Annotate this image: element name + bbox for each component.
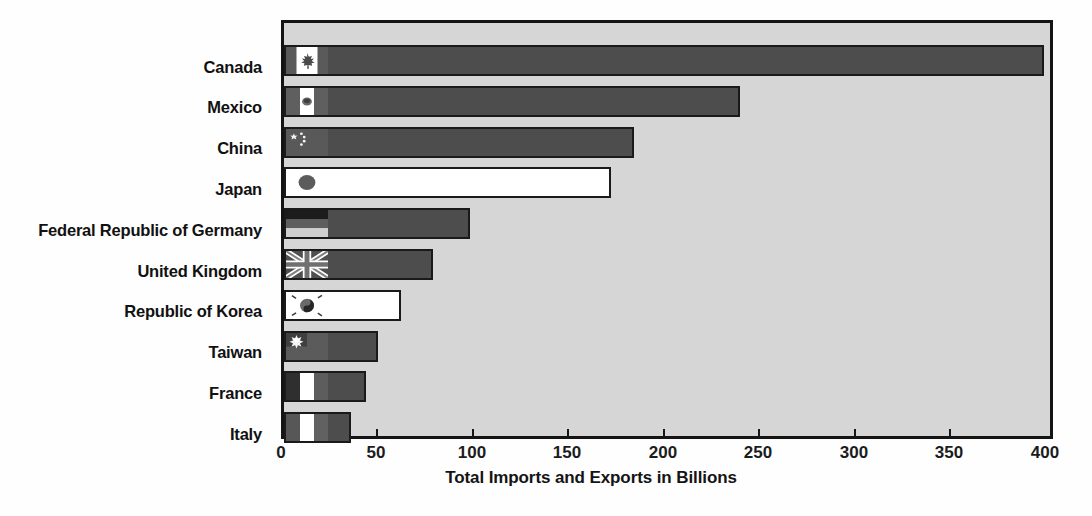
axis-tick xyxy=(758,429,760,439)
taiwan-flag xyxy=(286,333,328,360)
category-label-text: Republic of Korea xyxy=(124,303,262,320)
bar-mexico[interactable] xyxy=(284,86,740,117)
axis-tick xyxy=(376,429,378,439)
italy-flag xyxy=(286,414,328,441)
axis-tick-label: 150 xyxy=(553,443,581,463)
japan-flag xyxy=(286,169,328,196)
bar-canada[interactable] xyxy=(284,45,1044,76)
axis-tick xyxy=(949,429,951,439)
bar-france[interactable] xyxy=(284,371,366,402)
china-flag xyxy=(286,129,328,156)
mexico-flag xyxy=(286,88,328,115)
canada-flag xyxy=(286,47,328,74)
bar-row xyxy=(284,366,1050,407)
bar-republic-of-korea[interactable] xyxy=(284,290,401,321)
bar-row xyxy=(284,285,1050,326)
bar-row xyxy=(284,40,1050,81)
axis-tick xyxy=(854,429,856,439)
category-label-france: France xyxy=(0,373,262,414)
bar-japan[interactable] xyxy=(284,167,611,198)
category-label-text: Italy xyxy=(230,426,262,443)
category-label-japan: Japan xyxy=(0,169,262,210)
category-label-text: China xyxy=(217,140,262,157)
bar-row xyxy=(284,407,1050,448)
category-label-mexico: Mexico xyxy=(0,87,262,128)
category-label-taiwan: Taiwan xyxy=(0,332,262,373)
value-axis: 0 50 100 150 200 250 300 350 400 xyxy=(281,439,1053,440)
bar-row xyxy=(284,122,1050,163)
axis-tick-label: 200 xyxy=(649,443,677,463)
bar-row xyxy=(284,326,1050,367)
axis-tick-label: 0 xyxy=(276,443,285,463)
bar-series xyxy=(284,23,1050,436)
axis-tick-label: 400 xyxy=(1031,443,1059,463)
germany-flag xyxy=(286,210,328,237)
category-label-united-kingdom: United Kingdom xyxy=(0,250,262,291)
category-label-text: Federal Republic of Germany xyxy=(38,222,262,239)
plot-area xyxy=(281,20,1053,439)
category-label-italy: Italy xyxy=(0,414,262,455)
category-label-text: France xyxy=(209,385,262,402)
south-korea-flag xyxy=(286,292,328,319)
axis-tick-label: 350 xyxy=(935,443,963,463)
category-label-canada: Canada xyxy=(0,46,262,87)
united-kingdom-flag xyxy=(286,251,328,278)
category-label-republic-of-korea: Republic of Korea xyxy=(0,291,262,332)
bar-taiwan[interactable] xyxy=(284,331,378,362)
bar-united-kingdom[interactable] xyxy=(284,249,433,280)
category-axis-labels: Canada Mexico China Japan Federal Republ… xyxy=(0,26,272,434)
bar-row xyxy=(284,162,1050,203)
axis-title-text: Total Imports and Exports in Billions xyxy=(355,468,737,487)
category-label-text: Canada xyxy=(204,59,262,76)
category-label-china: China xyxy=(0,128,262,169)
axis-title: Total Imports and Exports in Billions xyxy=(0,468,1092,488)
axis-tick xyxy=(663,429,665,439)
axis-tick-label: 250 xyxy=(744,443,772,463)
axis-tick-label: 100 xyxy=(458,443,486,463)
axis-tick xyxy=(281,429,283,439)
bar-federal-republic-of-germany[interactable] xyxy=(284,208,470,239)
bar-china[interactable] xyxy=(284,127,634,158)
axis-tick-label: 300 xyxy=(840,443,868,463)
axis-tick-label: 50 xyxy=(367,443,386,463)
category-label-text: Japan xyxy=(215,181,262,198)
chart-figure: Canada Mexico China Japan Federal Republ… xyxy=(0,0,1092,516)
france-flag xyxy=(286,373,328,400)
bar-row xyxy=(284,203,1050,244)
bar-row xyxy=(284,81,1050,122)
axis-tick xyxy=(567,429,569,439)
bar-row xyxy=(284,244,1050,285)
category-label-germany: Federal Republic of Germany xyxy=(0,210,262,251)
axis-tick xyxy=(472,429,474,439)
category-label-text: Taiwan xyxy=(208,344,262,361)
category-label-text: United Kingdom xyxy=(137,263,262,280)
category-label-text: Mexico xyxy=(207,99,262,116)
